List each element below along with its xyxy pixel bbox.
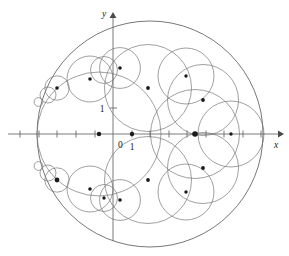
label-group: y x 0 1 1 <box>100 9 279 152</box>
dot-upper-inner-f <box>184 74 187 77</box>
dot-lower-inner-f <box>184 190 187 193</box>
y-unit-label: 1 <box>100 104 105 114</box>
circle-lower-inner-g <box>40 165 56 181</box>
origin-label: 0 <box>118 140 123 150</box>
circle-upper-inner-g <box>40 87 56 103</box>
dot-inner-e <box>229 132 232 135</box>
y-axis-label: y <box>101 9 107 19</box>
dot-lower-large <box>146 178 150 182</box>
x-axis-arrow-icon <box>278 131 284 138</box>
dot-lower-inner-d <box>102 196 105 199</box>
figure-root: y x 0 1 1 <box>0 0 289 256</box>
dot-top-mid <box>118 66 122 70</box>
dot-lower-right-mid <box>201 166 205 170</box>
dot-upper-right-mid <box>201 98 205 102</box>
dot-left-center <box>97 132 101 136</box>
dot-upper-small-b <box>55 86 59 90</box>
dot-lower-small-a <box>88 187 92 191</box>
circle-packing-diagram: y x 0 1 1 <box>0 0 289 256</box>
y-axis-arrow-icon <box>110 12 117 18</box>
dot-right-center <box>192 131 198 137</box>
dot-bottom-mid <box>118 198 122 202</box>
dot-upper-large <box>146 86 150 90</box>
x-unit-label: 1 <box>130 142 135 152</box>
dot-lower-small-b <box>55 178 60 183</box>
dot-origin-unit <box>130 132 134 136</box>
x-axis-label: x <box>273 140 279 150</box>
axes-group <box>8 12 284 241</box>
dot-upper-small-a <box>88 77 92 81</box>
